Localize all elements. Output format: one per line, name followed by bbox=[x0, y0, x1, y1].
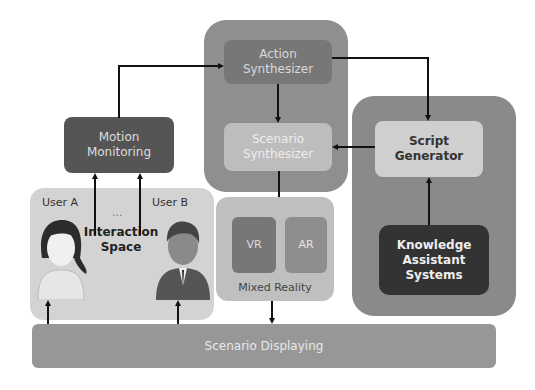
connector-motion-up bbox=[118, 66, 120, 118]
script-generator-label: Script Generator bbox=[394, 134, 464, 164]
arrow-up-icon bbox=[92, 173, 98, 179]
action-synthesizer-label: Action Synthesizer bbox=[238, 47, 318, 77]
connector-ia-motion-1 bbox=[94, 179, 96, 235]
interaction-space-label: Interaction Space bbox=[88, 222, 154, 258]
vr-box: VR bbox=[232, 217, 276, 273]
motion-monitoring-label: Motion Monitoring bbox=[79, 130, 159, 160]
connector-display-user-a bbox=[47, 306, 49, 324]
ellipsis-label: ... bbox=[112, 206, 123, 219]
connector-script-down bbox=[427, 57, 429, 115]
connector-action-scenario bbox=[277, 84, 279, 117]
arrow-down-icon bbox=[269, 318, 275, 324]
connector-display-user-b bbox=[177, 306, 179, 324]
arrow-left-icon bbox=[332, 144, 338, 150]
arrow-down-icon bbox=[275, 117, 281, 123]
connector-motion-right bbox=[118, 65, 218, 67]
ar-box: AR bbox=[285, 217, 327, 273]
knowledge-assistant-box: Knowledge Assistant Systems bbox=[379, 225, 489, 295]
knowledge-assistant-label: Knowledge Assistant Systems bbox=[394, 238, 474, 283]
user-b-icon bbox=[154, 214, 212, 300]
connector-scenario-mixed bbox=[278, 171, 280, 197]
connector-script-scenario bbox=[338, 146, 375, 148]
arrow-up-icon bbox=[426, 177, 432, 183]
arrow-up-icon bbox=[45, 300, 51, 306]
motion-monitoring-box: Motion Monitoring bbox=[64, 117, 174, 173]
script-generator-box: Script Generator bbox=[375, 121, 483, 177]
connector-ia-motion-2 bbox=[139, 179, 141, 235]
action-synthesizer-box: Action Synthesizer bbox=[224, 40, 332, 84]
scenario-synthesizer-label: Scenario Synthesizer bbox=[238, 132, 318, 162]
connector-action-right bbox=[332, 57, 428, 59]
user-b-label: User B bbox=[152, 196, 188, 209]
arrow-down-icon bbox=[425, 115, 431, 121]
scenario-synthesizer-box: Scenario Synthesizer bbox=[224, 123, 332, 171]
arrow-up-icon bbox=[137, 173, 143, 179]
connector-mixed-display bbox=[271, 301, 273, 318]
user-a-label: User A bbox=[42, 196, 78, 209]
arrow-up-icon bbox=[175, 300, 181, 306]
user-a-icon bbox=[32, 214, 90, 300]
mixed-reality-label: Mixed Reality bbox=[216, 280, 334, 296]
connector-knowledge-script bbox=[428, 183, 430, 225]
arrow-right-icon bbox=[218, 63, 224, 69]
scenario-displaying-label: Scenario Displaying bbox=[205, 339, 324, 354]
scenario-displaying-box: Scenario Displaying bbox=[32, 324, 496, 368]
